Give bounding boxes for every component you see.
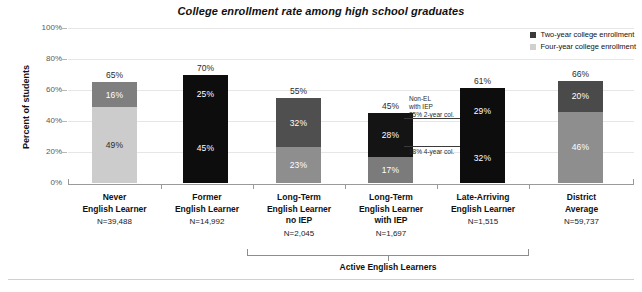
bar-stack-former: 25% 45% — [183, 75, 228, 184]
category-count-lt-no-iep: N=2,045 — [253, 228, 345, 240]
callout-rule-two-year — [404, 118, 460, 119]
bar-total-late-arriving: 61% — [460, 76, 505, 86]
x-axis-tick-5 — [529, 184, 530, 189]
bar-segment-two-year-former[interactable]: 25% — [183, 75, 228, 114]
category-line-1-late-arriving: Late-Arriving — [457, 192, 510, 202]
category-line-1-lt-no-iep: Long-Term — [277, 192, 321, 202]
bracket-tick-left — [247, 249, 248, 256]
bar-stack-never: 16% 49% — [92, 82, 137, 183]
category-line-1-district: District — [567, 192, 596, 202]
bar-segment-two-year-never[interactable]: 16% — [92, 82, 137, 107]
bar-segment-two-year-lt-no-iep[interactable]: 32% — [276, 98, 321, 148]
bar-total-district: 66% — [558, 69, 603, 79]
bar-stack-late-arriving: 29% 32% — [460, 88, 505, 183]
bar-segment-label-four-year-former: 45% — [197, 143, 215, 153]
bar-segment-label-two-year-lt-no-iep: 32% — [290, 118, 308, 128]
category-count-former: N=14,992 — [161, 216, 253, 228]
chart-container: College enrollment rate among high schoo… — [0, 0, 642, 292]
x-axis-cap-right — [633, 179, 634, 185]
y-tick-dash-80 — [62, 59, 67, 60]
bar-total-never: 65% — [92, 70, 137, 80]
bar-segment-four-year-lt-with-iep[interactable]: 17% — [368, 157, 413, 183]
footer-divider — [8, 279, 634, 280]
category-line-2-lt-no-iep: English Learner — [267, 204, 331, 214]
callout-rule-four-year — [404, 146, 460, 147]
category-line-2-lt-with-iep: English Learner — [359, 204, 423, 214]
gridline-20 — [68, 152, 634, 153]
bar-stack-district: 20% 46% — [558, 81, 603, 183]
y-tick-80: 80% — [6, 54, 62, 63]
y-tick-dash-20 — [62, 152, 67, 153]
y-tick-dash-40 — [62, 121, 67, 122]
bar-segment-label-two-year-never: 16% — [106, 90, 124, 100]
bar-segment-two-year-lt-with-iep[interactable]: 28% — [368, 113, 413, 156]
category-label-long-term-no-iep: Long-Term English Learner no IEP N=2,045 — [253, 192, 345, 239]
y-tick-0: 0% — [6, 178, 62, 187]
bar-total-former: 70% — [183, 63, 228, 73]
bar-segment-label-two-year-lt-with-iep: 28% — [382, 130, 400, 140]
x-axis-cap-left — [68, 179, 69, 185]
bracket-tick-center — [388, 255, 389, 261]
bar-segment-four-year-lt-no-iep[interactable]: 23% — [276, 147, 321, 183]
bar-stack-lt-no-iep: 32% 23% — [276, 98, 321, 183]
category-line-2-district: Average — [565, 204, 598, 214]
bar-segment-two-year-district[interactable]: 20% — [558, 81, 603, 112]
category-line-2-former: English Learner — [175, 204, 239, 214]
bar-segment-label-four-year-never: 49% — [106, 140, 124, 150]
gridline-60 — [68, 90, 634, 91]
bar-group-long-term-no-iep[interactable]: 55% 32% 23% — [276, 28, 321, 183]
category-label-district-average: District Average N=59,737 — [529, 192, 634, 228]
bar-total-lt-with-iep: 45% — [368, 101, 413, 111]
callout-line-1: Non-EL — [409, 95, 454, 103]
category-line-3-lt-no-iep: no IEP — [286, 215, 312, 225]
bar-segment-label-two-year-former: 25% — [197, 89, 215, 99]
y-tick-100: 100% — [6, 23, 62, 32]
bar-segment-label-two-year-district: 20% — [572, 91, 590, 101]
gridline-80 — [68, 59, 634, 60]
category-line-2-never: English Learner — [82, 204, 146, 214]
y-tick-20: 20% — [6, 147, 62, 156]
category-count-late-arriving: N=1,515 — [437, 216, 529, 228]
callout-line-2: with IEP — [409, 103, 454, 111]
bar-segment-label-four-year-late-arriving: 32% — [474, 153, 492, 163]
callout-non-el-with-iep: Non-EL with IEP 25% 2-year col. — [409, 95, 454, 119]
bar-group-never-english-learner[interactable]: 65% 16% 49% — [92, 28, 137, 183]
x-axis-tick-2 — [253, 184, 254, 189]
bar-segment-four-year-former[interactable]: 45% — [183, 113, 228, 183]
bar-group-long-term-with-iep[interactable]: 45% 28% 17% — [368, 28, 413, 183]
x-axis-tick-1 — [161, 184, 162, 189]
category-line-1-former: Former — [192, 192, 221, 202]
x-axis-tick-3 — [345, 184, 346, 189]
y-tick-40: 40% — [6, 116, 62, 125]
category-label-never-english-learner: Never English Learner N=39,488 — [68, 192, 161, 228]
bar-segment-label-four-year-lt-no-iep: 23% — [290, 160, 308, 170]
bar-segment-four-year-district[interactable]: 46% — [558, 112, 603, 183]
bracket-label-active-english-learners: Active English Learners — [288, 262, 488, 272]
bar-segment-four-year-never[interactable]: 49% — [92, 107, 137, 183]
callout-four-year: 18% 4-year col. — [409, 148, 454, 156]
bar-group-late-arriving[interactable]: 61% 29% 32% — [460, 28, 505, 183]
y-tick-dash-100 — [62, 28, 67, 29]
category-label-late-arriving: Late-Arriving English Learner N=1,515 — [437, 192, 529, 228]
x-axis-line — [68, 184, 634, 185]
y-tick-dash-60 — [62, 90, 67, 91]
category-line-3-lt-with-iep: with IEP — [374, 215, 407, 225]
bracket-tick-right — [528, 249, 529, 256]
bar-segment-label-two-year-late-arriving: 29% — [474, 106, 492, 116]
category-line-1-never: Never — [103, 192, 127, 202]
gridline-100 — [68, 28, 634, 29]
chart-title: College enrollment rate among high schoo… — [0, 5, 642, 17]
bar-stack-lt-with-iep: 28% 17% — [368, 113, 413, 183]
gridline-40 — [68, 121, 634, 122]
bar-segment-label-four-year-lt-with-iep: 17% — [382, 165, 400, 175]
bar-group-former-english-learner[interactable]: 70% 25% 45% — [183, 28, 228, 183]
bar-segment-two-year-late-arriving[interactable]: 29% — [460, 88, 505, 133]
category-label-long-term-with-iep: Long-Term English Learner with IEP N=1,6… — [345, 192, 437, 239]
bar-group-district-average[interactable]: 66% 20% 46% — [558, 28, 603, 183]
category-count-lt-with-iep: N=1,697 — [345, 228, 437, 240]
category-line-1-lt-with-iep: Long-Term — [369, 192, 413, 202]
bar-segment-four-year-late-arriving[interactable]: 32% — [460, 133, 505, 183]
bar-segment-label-four-year-district: 46% — [572, 142, 590, 152]
y-tick-60: 60% — [6, 85, 62, 94]
bar-total-lt-no-iep: 55% — [276, 86, 321, 96]
